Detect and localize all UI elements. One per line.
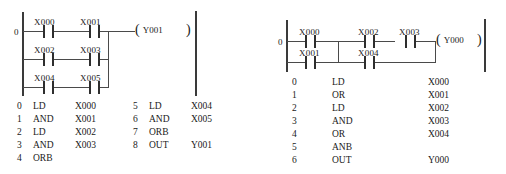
il-step: 6: [292, 154, 332, 167]
il-operand: X005: [191, 113, 231, 126]
output-coil-y000: (Y000: [436, 34, 467, 46]
wire-rung3-seg1: [23, 87, 43, 88]
il-step: 4: [292, 128, 332, 141]
il-operand: [191, 126, 231, 139]
il-step: 4: [17, 152, 33, 165]
il-step: 6: [133, 113, 149, 126]
instruction-list-right-diagram: 0 LD X000 1 OR X001 2 LD X002 3 AND: [292, 76, 468, 167]
instruction-list-left-col: 0 LD X000 1 AND X001 2 LD X002 3 AND: [17, 100, 115, 165]
il-instr: LD: [33, 100, 75, 113]
il-operand: X002: [75, 126, 115, 139]
contact-x004-icon: [43, 81, 54, 94]
il-step: 5: [133, 100, 149, 113]
il-row: 2 LD X002: [292, 102, 468, 115]
contact-x003-2-icon: [405, 35, 416, 48]
rung-number-left: 0: [14, 27, 19, 37]
il-row: 0 LD X000: [17, 100, 115, 113]
il-operand: X000: [75, 100, 115, 113]
wire-r2-top-seg4: [375, 41, 395, 42]
il-step: 1: [17, 113, 33, 126]
il-step: 5: [292, 141, 332, 154]
il-operand: [75, 152, 115, 165]
contact-x005-icon: [89, 81, 100, 94]
il-step: 8: [133, 139, 149, 152]
il-instr: LD: [33, 126, 75, 139]
instruction-list-right-col: 5 LD X004 6 AND X005 7 ORB 8 OUT Y0: [133, 100, 231, 152]
il-row: 8 OUT Y001: [133, 139, 231, 152]
il-operand: X003: [428, 115, 468, 128]
il-row: 6 AND X005: [133, 113, 231, 126]
il-step: 7: [133, 126, 149, 139]
il-row: 1 AND X001: [17, 113, 115, 126]
left-power-rail-2: [286, 20, 288, 72]
wire-rung2-seg1: [23, 59, 43, 60]
coil-close-paren-2: ): [477, 34, 482, 46]
wire-r2-bot-seg1: [287, 62, 305, 63]
il-operand: Y001: [191, 139, 231, 152]
il-step: 1: [292, 89, 332, 102]
il-row: 3 AND X003: [292, 115, 468, 128]
il-instr: LD: [149, 100, 191, 113]
il-operand: X000: [428, 76, 468, 89]
coil-label-y001: Y001: [140, 25, 166, 35]
il-operand: X001: [428, 89, 468, 102]
wire-rung2-seg2: [54, 59, 89, 60]
il-instr: OUT: [149, 139, 191, 152]
il-step: 3: [292, 115, 332, 128]
il-step: 0: [17, 100, 33, 113]
wire-rung2-seg3: [100, 59, 108, 60]
wire-r2-top-seg2: [316, 41, 338, 42]
il-row: 4 ORB: [17, 152, 115, 165]
ladder-diagram-canvas: 0 X000 X001 X002 X003 X004 X005 (Y001 ): [0, 0, 506, 174]
wire-r2-bot-seg4: [375, 62, 435, 63]
coil-open-paren: (: [135, 22, 140, 37]
right-power-rail: [195, 11, 197, 96]
il-instr: LD: [332, 76, 428, 89]
il-instr: AND: [149, 113, 191, 126]
il-step: 2: [17, 126, 33, 139]
il-step: 0: [292, 76, 332, 89]
il-operand: X001: [75, 113, 115, 126]
branch-tie-vertical-left: [108, 31, 109, 88]
contact-x001-2-icon: [305, 56, 316, 69]
wire-r2-top-seg3: [338, 41, 364, 42]
il-operand: Y000: [428, 154, 468, 167]
left-power-rail: [22, 12, 24, 96]
wire-rung3-seg2: [54, 87, 89, 88]
contact-x003-icon: [89, 53, 100, 66]
rung-number-right: 0: [278, 37, 283, 47]
il-instr: OR: [332, 89, 428, 102]
il-instr: OR: [332, 128, 428, 141]
contact-x001-icon: [89, 25, 100, 38]
contact-x004-2-icon: [364, 56, 375, 69]
il-instr: AND: [33, 113, 75, 126]
wire-rung1-seg1: [23, 31, 43, 32]
wire-r2-top-seg5: [416, 41, 436, 42]
il-row: 1 OR X001: [292, 89, 468, 102]
contact-x000-2-icon: [305, 35, 316, 48]
il-instr: AND: [332, 115, 428, 128]
il-instr: ANB: [332, 141, 428, 154]
contact-x000-icon: [43, 25, 54, 38]
wire-r2-top-seg1: [287, 41, 305, 42]
wire-rung1-seg2: [54, 31, 89, 32]
il-instr: AND: [33, 139, 75, 152]
il-operand: X004: [191, 100, 231, 113]
coil-label-y000: Y000: [441, 35, 467, 45]
il-operand: [428, 141, 468, 154]
branch-tie-block-a: [338, 41, 339, 63]
wire-r2-bot-seg2: [316, 62, 338, 63]
il-operand: X003: [75, 139, 115, 152]
il-step: 2: [292, 102, 332, 115]
il-row: 7 ORB: [133, 126, 231, 139]
contact-x002-2-icon: [364, 35, 375, 48]
il-instr: ORB: [149, 126, 191, 139]
coil-close-paren: ): [186, 24, 191, 36]
coil-open-paren-2: (: [436, 32, 441, 47]
contact-x002-icon: [43, 53, 54, 66]
il-row: 5 ANB: [292, 141, 468, 154]
il-operand: X002: [428, 102, 468, 115]
wire-rung3-seg3: [100, 87, 108, 88]
il-instr: OUT: [332, 154, 428, 167]
wire-r2-bot-seg3: [338, 62, 364, 63]
